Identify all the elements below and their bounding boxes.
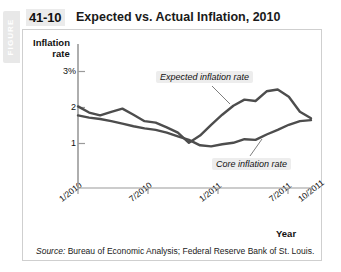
leader-line-expected (212, 86, 230, 104)
series-line-expected-inflation-rate (78, 90, 311, 143)
chart-plot-area (0, 0, 341, 272)
source-note: Source: Bureau of Economic Analysis; Fed… (36, 246, 314, 256)
chart-series-group (78, 90, 311, 147)
source-text: Bureau of Economic Analysis; Federal Res… (65, 246, 314, 256)
x-tick-marks (78, 188, 311, 194)
figure-container: FIGURE 41-10 Expected vs. Actual Inflati… (0, 0, 341, 272)
leader-line-core (250, 139, 262, 156)
annotation-core-inflation-rate: Core inflation rate (212, 158, 291, 170)
series-line-core-inflation-rate (78, 115, 311, 146)
annotation-expected-inflation-rate: Expected inflation rate (156, 71, 253, 83)
source-prefix: Source: (36, 246, 65, 256)
